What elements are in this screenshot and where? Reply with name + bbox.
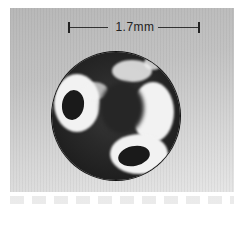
scale-bar-label: 1.7mm	[110, 20, 160, 34]
sphere-particle	[52, 52, 180, 180]
dark-center-region	[100, 82, 144, 134]
scale-bar: 1.7mm	[68, 20, 200, 34]
scale-bar-line-right	[158, 27, 198, 28]
scale-bar-right-tick	[198, 22, 200, 33]
figure-caption	[10, 196, 234, 204]
highlight-region	[144, 56, 162, 70]
scale-bar-left-tick	[68, 22, 70, 33]
scale-bar-line-left	[70, 27, 108, 28]
